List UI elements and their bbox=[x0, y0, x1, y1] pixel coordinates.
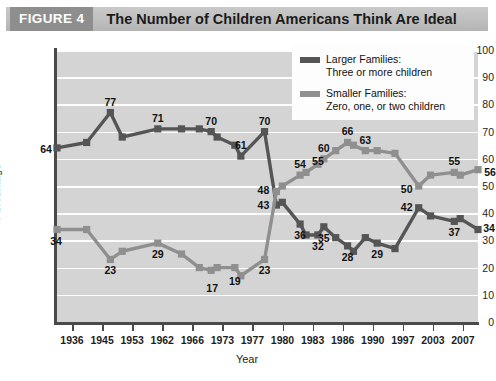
data-point-value-label: 56 bbox=[484, 166, 496, 178]
x-axis-tick bbox=[283, 324, 285, 331]
data-point-marker bbox=[350, 142, 357, 149]
data-point-marker bbox=[474, 166, 481, 173]
x-axis-tick-label: 1997 bbox=[391, 334, 414, 346]
legend-label-larger: Larger Families: Three or more children bbox=[326, 53, 432, 78]
data-point-marker bbox=[332, 234, 339, 241]
data-point-marker bbox=[261, 128, 268, 135]
data-point-marker bbox=[178, 125, 185, 132]
data-point-value-label: 60 bbox=[318, 142, 330, 154]
data-point-marker bbox=[154, 125, 161, 132]
legend-item-larger-families: Larger Families: Three or more children bbox=[300, 53, 468, 78]
x-axis-tick bbox=[463, 324, 465, 331]
data-point-marker bbox=[427, 212, 434, 219]
x-axis-tick bbox=[313, 324, 315, 331]
x-axis-tick bbox=[343, 324, 345, 331]
data-point-marker bbox=[374, 147, 381, 154]
data-point-marker bbox=[320, 223, 327, 230]
data-point-marker bbox=[154, 240, 161, 247]
x-axis-tick bbox=[373, 324, 375, 331]
data-point-value-label: 43 bbox=[258, 199, 270, 211]
x-axis-tick-label: 1953 bbox=[120, 334, 143, 346]
figure-title: The Number of Children Americans Think A… bbox=[106, 11, 456, 27]
data-point-value-label: 71 bbox=[152, 112, 164, 124]
figure-title-bar: FIGURE 4 The Number of Children American… bbox=[6, 7, 488, 31]
y-axis-tick-label: 10 bbox=[448, 289, 494, 301]
data-point-value-label: 35 bbox=[318, 232, 330, 244]
y-axis-tick-label: 20 bbox=[448, 262, 494, 274]
data-point-marker bbox=[231, 264, 238, 271]
data-point-value-label: 48 bbox=[258, 184, 270, 196]
chart-container: Percentage 64777170617043363235282942373… bbox=[0, 31, 494, 381]
legend-item-smaller-families: Smaller Families: Zero, one, or two chil… bbox=[300, 87, 468, 112]
data-point-marker bbox=[107, 256, 114, 263]
x-axis-tick-label: 1977 bbox=[241, 334, 264, 346]
data-point-value-label: 19 bbox=[229, 275, 241, 287]
x-axis-tick-label: 1986 bbox=[331, 334, 354, 346]
y-axis-tick-label: 70 bbox=[448, 126, 494, 138]
y-axis-tick-label: 0 bbox=[448, 316, 494, 328]
data-point-marker bbox=[83, 139, 90, 146]
data-point-marker bbox=[427, 172, 434, 179]
figure-number-badge: FIGURE 4 bbox=[10, 7, 93, 31]
data-point-value-label: 77 bbox=[105, 96, 117, 108]
data-point-marker bbox=[213, 264, 220, 271]
legend-swatch-smaller bbox=[300, 91, 320, 97]
x-axis-tick bbox=[433, 324, 435, 331]
data-point-value-label: 64 bbox=[40, 143, 52, 155]
data-point-marker bbox=[332, 147, 339, 154]
data-point-value-label: 34 bbox=[483, 222, 495, 234]
y-axis-tick-label: 30 bbox=[448, 234, 494, 246]
data-point-marker bbox=[213, 133, 220, 140]
data-point-marker bbox=[457, 172, 464, 179]
data-point-marker bbox=[415, 182, 422, 189]
data-point-marker bbox=[391, 150, 398, 157]
chart-legend: Larger Families: Three or more children … bbox=[292, 45, 474, 120]
data-point-marker bbox=[196, 125, 203, 132]
data-point-value-label: 23 bbox=[105, 264, 117, 276]
data-point-marker bbox=[391, 245, 398, 252]
data-point-value-label: 70 bbox=[259, 115, 271, 127]
data-point-marker bbox=[119, 248, 126, 255]
data-point-marker bbox=[107, 109, 114, 116]
x-axis-tick bbox=[132, 324, 134, 331]
data-point-marker bbox=[362, 147, 369, 154]
y-axis-tick-label: 60 bbox=[448, 153, 494, 165]
x-axis-tick-label: 1990 bbox=[361, 334, 384, 346]
x-axis-tick-label: 1983 bbox=[301, 334, 324, 346]
data-point-value-label: 70 bbox=[205, 115, 217, 127]
data-point-marker bbox=[53, 226, 60, 233]
x-axis-tick bbox=[252, 324, 254, 331]
data-point-marker bbox=[297, 220, 304, 227]
data-point-marker bbox=[362, 234, 369, 241]
legend-label-smaller: Smaller Families: Zero, one, or two chil… bbox=[326, 87, 445, 112]
data-point-marker bbox=[119, 133, 126, 140]
x-axis-tick bbox=[162, 324, 164, 331]
data-point-value-label: 50 bbox=[401, 183, 413, 195]
data-point-value-label: 29 bbox=[152, 248, 164, 260]
data-point-marker bbox=[279, 182, 286, 189]
data-point-value-label: 42 bbox=[401, 201, 413, 213]
data-point-value-label: 61 bbox=[235, 139, 247, 151]
data-point-value-label: 63 bbox=[359, 134, 371, 146]
y-axis-tick-label: 50 bbox=[448, 180, 494, 192]
x-axis-tick-label: 1945 bbox=[90, 334, 113, 346]
data-point-marker bbox=[178, 250, 185, 257]
data-point-value-label: 66 bbox=[342, 125, 354, 137]
data-point-marker bbox=[196, 264, 203, 271]
data-point-value-label: 36 bbox=[294, 229, 306, 241]
legend-swatch-larger bbox=[300, 57, 320, 63]
data-point-value-label: 34 bbox=[50, 235, 62, 247]
data-point-marker bbox=[374, 240, 381, 247]
x-axis-line bbox=[54, 322, 479, 325]
legend-smaller-line2: Zero, one, or two children bbox=[326, 100, 445, 113]
x-axis-tick bbox=[72, 324, 74, 331]
data-point-marker bbox=[279, 199, 286, 206]
x-axis-tick bbox=[192, 324, 194, 331]
legend-larger-line1: Larger Families: bbox=[326, 53, 432, 66]
x-axis-tick-label: 1980 bbox=[271, 334, 294, 346]
data-point-value-label: 17 bbox=[206, 282, 218, 294]
data-point-marker bbox=[474, 226, 481, 233]
legend-larger-line2: Three or more children bbox=[326, 66, 432, 79]
data-point-value-label: 28 bbox=[342, 251, 354, 263]
data-point-marker bbox=[83, 226, 90, 233]
